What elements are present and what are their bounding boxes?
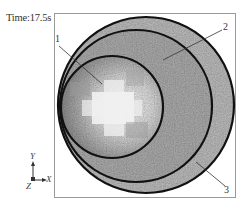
axis-label-x: X — [46, 174, 52, 184]
simulation-figure — [0, 0, 248, 212]
callout-3: 3 — [224, 184, 229, 195]
callout-2: 2 — [223, 21, 228, 32]
axis-triad — [31, 161, 47, 182]
callout-1: 1 — [55, 33, 60, 44]
axis-label-z: Z — [26, 181, 31, 191]
time-label: Time:17.5s — [6, 12, 51, 23]
axis-label-y: Y — [30, 151, 35, 161]
